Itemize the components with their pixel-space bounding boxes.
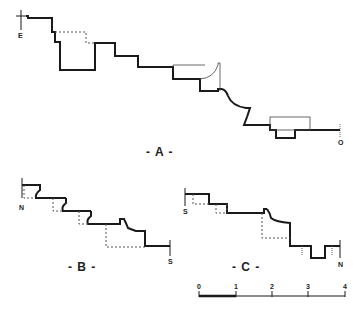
scale-tick-0: 0 [197,283,201,290]
profile-c [185,188,340,258]
profile-c-end-label: N [338,261,343,268]
scale-tick-1: 1 [234,283,238,290]
profile-b-start-label: N [19,204,24,211]
scale-tick-2: 2 [270,283,274,290]
profiles-drawing [0,0,362,314]
scale-bar [199,291,345,297]
profile-a [16,10,340,138]
scale-tick-4: 4 [343,283,347,290]
figure-b-caption: - B - [68,260,96,274]
figure-a-caption: - A - [146,145,173,159]
profile-c-start-label: S [183,208,188,215]
profile-b [22,178,170,256]
profile-a-start-label: E [18,32,23,39]
profile-a-end-label: O [338,139,343,146]
figure-c-caption: - C - [232,260,260,274]
profile-b-end-label: S [168,258,173,265]
scale-tick-3: 3 [306,283,310,290]
